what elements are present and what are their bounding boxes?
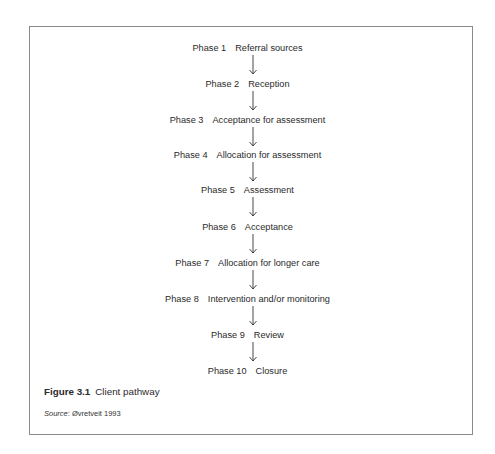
- phase-number: Phase 1: [192, 43, 226, 53]
- phase-label: Assessment: [244, 185, 294, 195]
- down-arrow-icon: [248, 342, 258, 362]
- source-text: : Øvretveit 1993: [68, 409, 121, 418]
- phase-node: Phase 9Review: [0, 329, 495, 341]
- phase-label: Referral sources: [235, 43, 302, 53]
- phase-label: Allocation for assessment: [217, 150, 322, 160]
- phase-label: Acceptance for assessment: [212, 115, 325, 125]
- phase-number: Phase 5: [201, 185, 235, 195]
- figure-title: Client pathway: [95, 386, 159, 397]
- phase-node: Phase 1Referral sources: [0, 42, 495, 54]
- figure-source: Source: Øvretveit 1993: [44, 409, 121, 418]
- phase-number: Phase 6: [202, 222, 236, 232]
- phase-label: Closure: [256, 366, 288, 376]
- figure-number: Figure 3.1: [44, 386, 90, 397]
- phase-number: Phase 4: [174, 150, 208, 160]
- phase-node: Phase 6Acceptance: [0, 221, 495, 233]
- phase-node: Phase 7Allocation for longer care: [0, 257, 495, 269]
- phase-number: Phase 3: [170, 115, 204, 125]
- phase-number: Phase 7: [175, 258, 209, 268]
- phase-label: Intervention and/or monitoring: [208, 294, 330, 304]
- phase-label: Reception: [248, 79, 289, 89]
- down-arrow-icon: [248, 55, 258, 75]
- down-arrow-icon: [248, 234, 258, 254]
- down-arrow-icon: [248, 127, 258, 147]
- down-arrow-icon: [248, 162, 258, 182]
- phase-label: Acceptance: [245, 222, 293, 232]
- phase-number: Phase 10: [208, 366, 247, 376]
- phase-node: Phase 2Reception: [0, 78, 495, 90]
- source-label: Source: [44, 409, 68, 418]
- down-arrow-icon: [248, 270, 258, 290]
- phase-number: Phase 8: [165, 294, 199, 304]
- down-arrow-icon: [248, 91, 258, 111]
- phase-node: Phase 5Assessment: [0, 184, 495, 196]
- phase-node: Phase 8Intervention and/or monitoring: [0, 293, 495, 305]
- phase-number: Phase 2: [205, 79, 239, 89]
- phase-node: Phase 3Acceptance for assessment: [0, 114, 495, 126]
- phase-node: Phase 10Closure: [0, 365, 495, 377]
- down-arrow-icon: [248, 306, 258, 326]
- figure-caption: Figure 3.1Client pathway: [44, 386, 160, 397]
- phase-label: Review: [254, 330, 284, 340]
- down-arrow-icon: [248, 197, 258, 217]
- phase-number: Phase 9: [211, 330, 245, 340]
- phase-label: Allocation for longer care: [218, 258, 320, 268]
- phase-node: Phase 4Allocation for assessment: [0, 149, 495, 161]
